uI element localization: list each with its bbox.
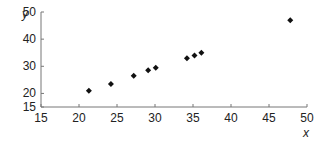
y-tick-label: 40 [23, 32, 37, 46]
data-point [184, 55, 190, 61]
y-tick-label: 30 [23, 59, 37, 73]
axes: 15202530354045501520304050 [23, 5, 314, 125]
y-tick-label: 20 [23, 86, 37, 100]
x-tick-label: 30 [148, 111, 162, 125]
scatter-chart: 15202530354045501520304050 y x [0, 0, 330, 148]
data-point [198, 50, 204, 56]
y-tick-label: 15 [23, 100, 37, 114]
data-point [287, 17, 293, 23]
data-point [86, 88, 92, 94]
data-points [86, 17, 293, 94]
data-point [131, 73, 137, 79]
x-tick-label: 35 [186, 111, 200, 125]
x-tick-label: 40 [224, 111, 238, 125]
x-tick-label: 15 [34, 111, 48, 125]
x-tick-label: 25 [110, 111, 124, 125]
data-point [145, 67, 151, 73]
y-axis-label: y [21, 7, 29, 21]
x-tick-label: 20 [72, 111, 86, 125]
x-tick-label: 50 [300, 111, 314, 125]
x-axis-label: x [302, 126, 310, 140]
x-tick-label: 45 [262, 111, 276, 125]
data-point [192, 52, 198, 58]
data-point [153, 65, 159, 71]
data-point [108, 81, 114, 87]
